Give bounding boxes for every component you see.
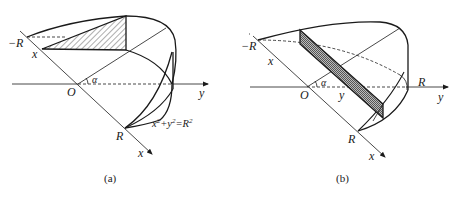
label-r-right-b: R: [417, 75, 426, 89]
label-x-axis-a: x: [137, 146, 144, 160]
label-r-point-b: R: [347, 132, 356, 146]
label-x-dim-b: x: [267, 54, 274, 68]
wedge-diagram: −R x O α y R x x2+y2=R2 (a): [0, 0, 457, 197]
label-alpha-a: α: [92, 74, 98, 85]
label-x-axis-b: x: [368, 149, 375, 163]
label-neg-r-b: −R: [241, 39, 257, 53]
caption-a: (a): [104, 172, 117, 185]
circle-equation: x2+y2=R2: [151, 117, 193, 129]
label-origin-b: O: [300, 88, 309, 102]
label-y-point-b: y: [338, 88, 345, 102]
top-edge-b: [258, 22, 408, 45]
cap-curve: [126, 16, 176, 84]
rectangle-cross-section: [300, 30, 383, 118]
label-r-point-a: R: [115, 129, 124, 143]
label-alpha-b: α: [321, 77, 327, 88]
alpha-arc-b: [315, 81, 317, 87]
figure-a: [12, 16, 208, 154]
front-arc: [125, 52, 172, 128]
alpha-arc: [86, 78, 88, 84]
label-y-axis-b: y: [437, 90, 444, 104]
label-y-axis-a: y: [198, 86, 205, 100]
label-x-point-a: x: [31, 47, 38, 61]
caption-b: (b): [336, 172, 349, 185]
label-origin-a: O: [67, 85, 76, 99]
base-arc: [125, 50, 172, 128]
label-neg-r-a: −R: [8, 36, 24, 50]
